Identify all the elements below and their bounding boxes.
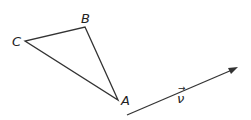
triangle-abc bbox=[25, 27, 118, 100]
vector-arrow-accent-icon: → bbox=[178, 84, 186, 93]
vertex-label-a: A bbox=[121, 94, 130, 107]
diagram-canvas: A B C ν → bbox=[0, 0, 251, 120]
vertex-label-c: C bbox=[12, 35, 21, 48]
vector-label-v: ν bbox=[177, 92, 184, 105]
vertex-label-b: B bbox=[81, 12, 90, 25]
vector-arrowhead-icon bbox=[228, 67, 238, 74]
